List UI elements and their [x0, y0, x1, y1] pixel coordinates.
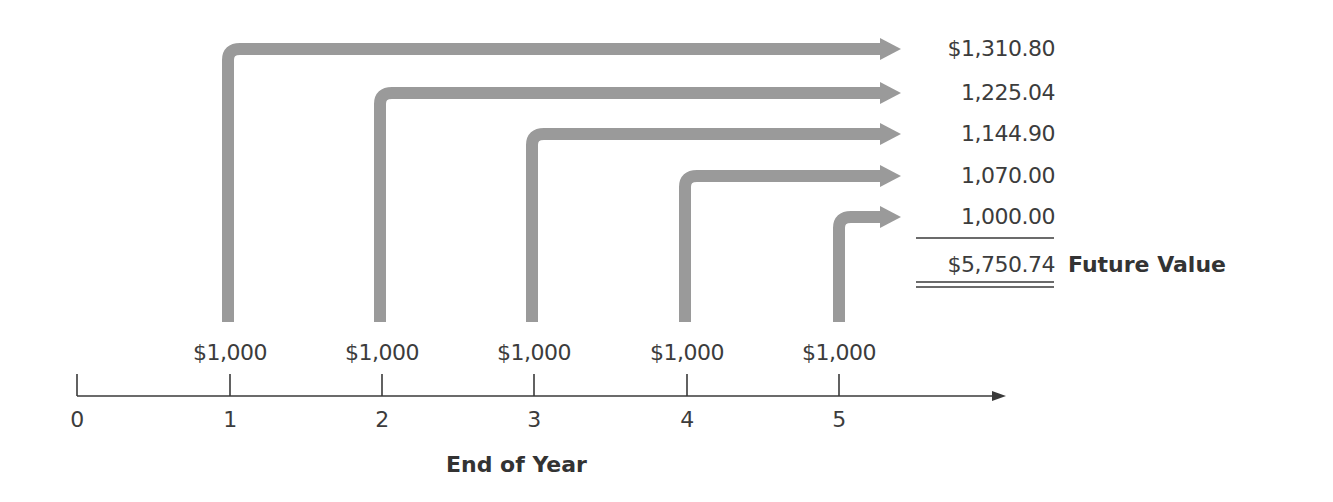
axis-title: End of Year — [446, 454, 587, 476]
future-value-year-4: 1,070.00 — [915, 165, 1055, 187]
diagram-graphics — [0, 0, 1333, 502]
arrow-head-icon — [880, 82, 901, 104]
payment-amount-year-4: $1,000 — [637, 342, 737, 364]
arrow-head-icon — [880, 123, 901, 145]
payment-amount-year-1: $1,000 — [180, 342, 280, 364]
future-value-year-2: 1,225.04 — [915, 82, 1055, 104]
arrow-head-icon — [880, 165, 901, 187]
compound-arrow-year-5 — [839, 217, 882, 322]
future-value-timeline-diagram: $1,310.80 1,225.04 1,144.90 1,070.00 1,0… — [0, 0, 1333, 502]
tick-label-4: 4 — [672, 409, 702, 431]
compound-arrow-year-2 — [380, 93, 882, 322]
tick-label-2: 2 — [367, 409, 397, 431]
tick-label-5: 5 — [824, 409, 854, 431]
payment-amount-year-5: $1,000 — [789, 342, 889, 364]
axis-arrow-head-icon — [992, 391, 1006, 401]
payment-amount-year-2: $1,000 — [332, 342, 432, 364]
compound-arrow-year-3 — [532, 134, 882, 322]
future-value-year-1: $1,310.80 — [915, 38, 1055, 60]
tick-label-0: 0 — [62, 409, 92, 431]
future-value-year-5: 1,000.00 — [915, 206, 1055, 228]
compound-arrow-year-4 — [685, 176, 882, 322]
future-value-caption: Future Value — [1068, 254, 1226, 276]
total-future-value: $5,750.74 — [915, 254, 1055, 276]
payment-amount-year-3: $1,000 — [484, 342, 584, 364]
tick-label-3: 3 — [519, 409, 549, 431]
tick-label-1: 1 — [215, 409, 245, 431]
arrow-head-icon — [880, 38, 901, 60]
arrow-head-icon — [880, 206, 901, 228]
future-value-year-3: 1,144.90 — [915, 123, 1055, 145]
